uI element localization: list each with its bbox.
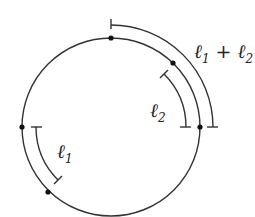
- point-left: [19, 124, 24, 129]
- diagram-canvas: [0, 0, 255, 217]
- label-l1: ℓ1: [57, 140, 73, 166]
- label-l1-plus-l2: ℓ1 + ℓ2: [194, 40, 253, 66]
- point-right: [197, 124, 202, 129]
- point-upper-right: [170, 60, 175, 65]
- arc-l2: [164, 74, 186, 127]
- point-lower-left: [45, 189, 50, 194]
- label-l2: ℓ2: [150, 99, 166, 125]
- point-top: [108, 35, 113, 40]
- arc-l1: [36, 127, 58, 180]
